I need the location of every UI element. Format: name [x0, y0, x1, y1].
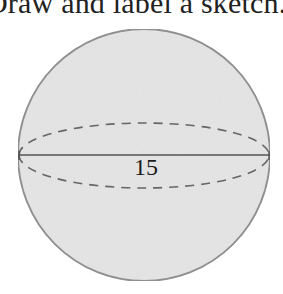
sphere-diagram [0, 0, 283, 294]
diameter-label: 15 [126, 154, 166, 181]
